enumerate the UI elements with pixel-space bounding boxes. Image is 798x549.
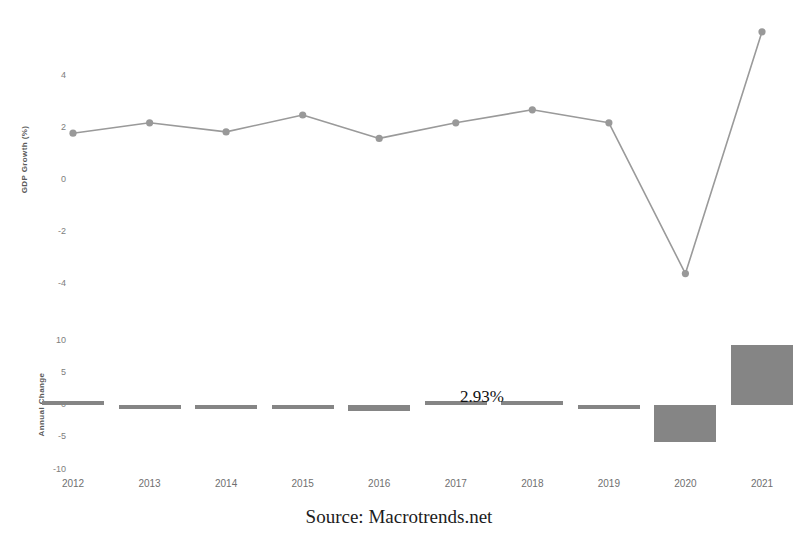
x-tick-label: 2014 xyxy=(196,478,256,489)
bar[interactable] xyxy=(578,405,640,409)
chart-page: GDP Growth (%) 420-2-4 Annual Change 105… xyxy=(0,0,798,549)
bar[interactable] xyxy=(501,401,563,405)
x-tick-label: 2018 xyxy=(502,478,562,489)
x-tick-label: 2015 xyxy=(273,478,333,489)
x-tick-label: 2021 xyxy=(732,478,792,489)
source-note: Source: Macrotrends.net xyxy=(0,506,798,528)
bar-chart-plot xyxy=(0,0,798,549)
x-tick-label: 2012 xyxy=(43,478,103,489)
x-tick-label: 2019 xyxy=(579,478,639,489)
bar[interactable] xyxy=(731,345,793,405)
x-tick-label: 2013 xyxy=(120,478,180,489)
x-tick-label: 2020 xyxy=(655,478,715,489)
x-tick-label: 2016 xyxy=(349,478,409,489)
bar[interactable] xyxy=(348,405,410,411)
bar[interactable] xyxy=(272,405,334,409)
x-tick-label: 2017 xyxy=(426,478,486,489)
bar[interactable] xyxy=(42,401,104,405)
bar[interactable] xyxy=(195,405,257,409)
annual-change-value-annotation: 2.93% xyxy=(460,387,504,407)
bar[interactable] xyxy=(654,405,716,442)
bar[interactable] xyxy=(119,405,181,409)
